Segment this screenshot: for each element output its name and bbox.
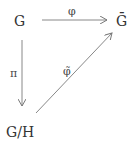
label-pi: π bbox=[10, 68, 17, 79]
label-phi: φ bbox=[68, 6, 76, 17]
node-g-bar: Ḡ bbox=[116, 14, 127, 28]
label-phi-tilde: φ̃ bbox=[63, 66, 71, 77]
commutative-diagram: G Ḡ G/H φ π φ̃ bbox=[0, 0, 139, 141]
node-g: G bbox=[14, 14, 25, 28]
node-g-over-h: G/H bbox=[6, 125, 34, 139]
arrow-phi-tilde bbox=[36, 33, 112, 113]
